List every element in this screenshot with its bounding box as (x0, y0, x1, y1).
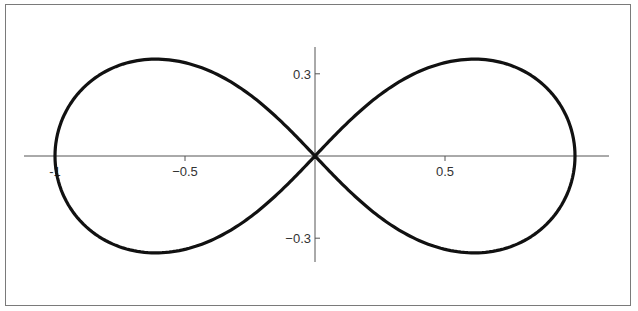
x-tick-label: −0.5 (172, 164, 198, 179)
x-tick-label: 0.5 (436, 164, 454, 179)
y-tick-label: 0.3 (293, 67, 311, 82)
y-tick-label: −0.3 (285, 231, 311, 246)
plot-area: -1−0.50.50.3−0.3 (0, 0, 638, 311)
